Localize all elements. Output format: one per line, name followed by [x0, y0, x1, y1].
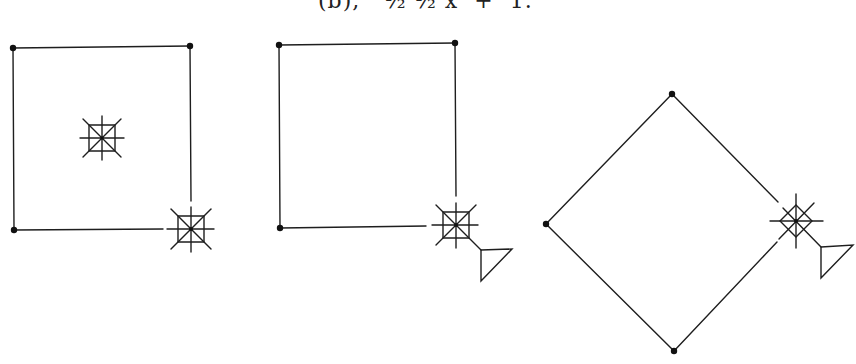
figure-1-top-edge: [13, 46, 190, 48]
vertex-dot: [669, 91, 675, 97]
vertex-dot: [10, 45, 16, 51]
vertex-dot: [543, 221, 549, 227]
vertex-dot: [671, 348, 677, 354]
figure-3: [543, 91, 853, 354]
figure-1-bottom-edge: [14, 229, 163, 230]
figure-1: [10, 43, 214, 252]
figure-1-left-edge: [13, 48, 14, 230]
boxed-star-symbol: [432, 203, 481, 250]
figure-3-lower-right-edge: [674, 242, 777, 351]
boxed-star-symbol: [80, 116, 124, 160]
vertex-dot: [187, 43, 193, 49]
flag-triangle-icon: [481, 249, 512, 281]
figure-3-upper-left-edge: [546, 94, 672, 224]
figure-2-bottom-edge: [280, 226, 426, 228]
figure-2-top-edge: [279, 43, 455, 45]
figure-3-lower-left-edge: [546, 224, 674, 351]
figure-2: [276, 40, 512, 281]
vertex-dot: [452, 40, 458, 46]
figure-3-upper-right-edge: [672, 94, 778, 202]
vertex-dot: [277, 225, 283, 231]
caption-text: (b), ½ ½ x + 1.: [318, 0, 533, 13]
figure-1-right-edge: [190, 46, 191, 201]
figures-svg: [0, 0, 856, 364]
boxed-star-symbol: [167, 207, 214, 252]
figure-2-left-edge: [279, 45, 280, 228]
figure-2-right-edge: [455, 43, 456, 196]
flag-triangle-icon: [821, 245, 853, 278]
vertex-dot: [11, 227, 17, 233]
vertex-dot: [276, 42, 282, 48]
diagram-canvas: (b), ½ ½ x + 1.: [0, 0, 856, 364]
